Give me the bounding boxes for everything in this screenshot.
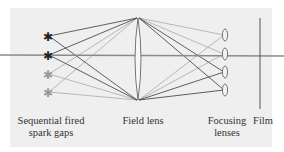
spark-gap-star-4: ✱ — [43, 86, 53, 100]
focusing-lenses — [222, 29, 227, 96]
focusing-lens-3 — [222, 66, 227, 78]
focusing-lens-2 — [222, 48, 227, 60]
label-focusing-line1: Focusing — [205, 115, 249, 127]
label-spark-gaps: Sequential fired spark gaps — [14, 115, 88, 139]
focusing-lens-4 — [222, 84, 227, 96]
label-field-lens: Field lens — [118, 115, 168, 127]
label-film: Film — [250, 115, 276, 127]
spark-gap-star-2: ✱ — [43, 49, 53, 63]
label-spark-gaps-line1: Sequential fired — [14, 115, 88, 127]
spark-gap-star-3: ✱ — [43, 68, 53, 82]
spark-gap-star-1: ✱ — [43, 30, 53, 44]
focusing-lens-1 — [222, 29, 227, 41]
spark-gaps: ✱ ✱ ✱ ✱ — [43, 30, 53, 100]
label-focusing-lenses: Focusing lenses — [205, 115, 249, 139]
field-lens — [135, 18, 141, 100]
label-spark-gaps-line2: spark gaps — [14, 127, 88, 139]
label-focusing-line2: lenses — [205, 127, 249, 139]
